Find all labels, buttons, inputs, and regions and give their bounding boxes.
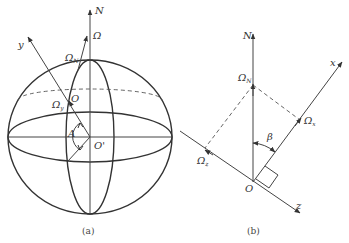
label-center-o-prime: O'	[94, 140, 105, 151]
label-origin-o-b: O	[245, 183, 253, 194]
label-north-a: N	[94, 5, 105, 16]
label-north-b: N	[242, 30, 253, 41]
label-z-axis: z	[295, 200, 302, 211]
omega-vector	[78, 36, 87, 70]
label-point-o: O	[71, 93, 79, 104]
label-angle-a: A	[67, 128, 75, 139]
projection-to-x	[253, 85, 300, 120]
projection-to-z	[205, 85, 253, 148]
label-omega-a: Ω	[92, 30, 101, 41]
label-x-axis: x	[330, 57, 336, 68]
label-omega-y-a: Ωy	[51, 99, 64, 112]
omega-x-vector-b	[295, 118, 301, 126]
figure-a-sphere	[8, 10, 172, 214]
label-angle-beta: β	[266, 131, 273, 142]
angle-beta-arc	[253, 143, 275, 152]
caption-a: (a)	[82, 226, 94, 236]
y-axis	[28, 37, 90, 137]
figure-b-diagram	[180, 34, 342, 213]
label-omega-x-b: Ωx	[303, 115, 316, 127]
label-omega-n-a: ΩN	[64, 52, 79, 64]
label-omega-n-b: ΩN	[237, 72, 252, 84]
label-y-axis: y	[17, 39, 24, 50]
caption-b: (b)	[247, 226, 260, 236]
figure-canvas: N Ω ΩN y Ωy O A O' (a) N ΩN x Ωx Ωz	[0, 0, 349, 243]
figure-b-labels: N ΩN x Ωx Ωz β O z (b)	[196, 30, 336, 236]
label-omega-z-b: Ωz	[196, 155, 209, 167]
